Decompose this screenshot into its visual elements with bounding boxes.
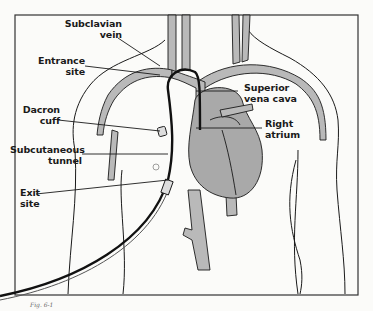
label-line: site bbox=[20, 198, 60, 209]
label-dacron-cuff: Dacron cuff bbox=[8, 104, 60, 126]
label-line: tunnel bbox=[10, 155, 82, 166]
label-subclavian-vein: Subclavian vein bbox=[52, 18, 122, 40]
label-entrance-site: Entrance site bbox=[30, 55, 85, 77]
exit-connector bbox=[161, 179, 173, 195]
label-line: Superior bbox=[244, 82, 314, 93]
figure-caption: Fig. 6-1 bbox=[30, 301, 53, 308]
label-line: Right bbox=[265, 118, 315, 129]
label-line: site bbox=[30, 66, 85, 77]
label-superior-vena-cava: Superior vena cava bbox=[244, 82, 314, 104]
label-line: Entrance bbox=[30, 55, 85, 66]
label-line: cuff bbox=[8, 115, 60, 126]
label-line: Dacron bbox=[8, 104, 60, 115]
label-line: Exit bbox=[20, 187, 60, 198]
label-line: vena cava bbox=[244, 93, 314, 104]
label-line: Subclavian bbox=[52, 18, 122, 29]
label-exit-site: Exit site bbox=[20, 187, 60, 209]
nipple-mark bbox=[153, 164, 159, 170]
label-line: vein bbox=[52, 29, 122, 40]
label-right-atrium: Right atrium bbox=[265, 118, 315, 140]
dacron-cuff-marker bbox=[157, 126, 167, 137]
label-line: Subcutaneous bbox=[10, 144, 82, 155]
label-subcutaneous-tunnel: Subcutaneous tunnel bbox=[10, 144, 82, 166]
label-line: atrium bbox=[265, 129, 315, 140]
